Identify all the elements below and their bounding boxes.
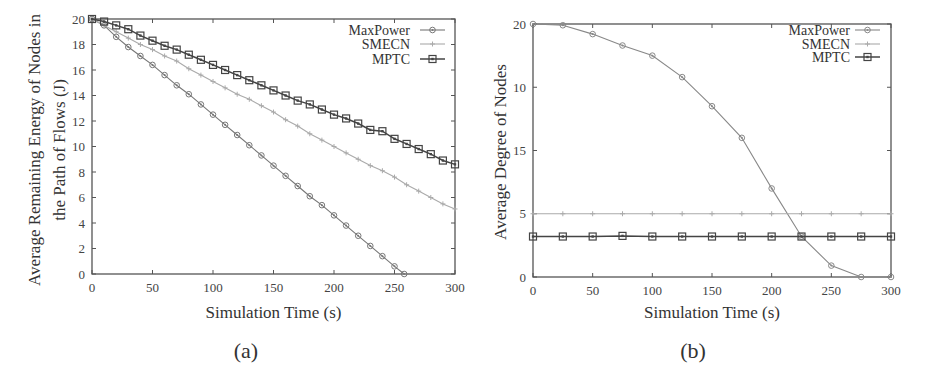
data-point-marker-center [333, 214, 335, 216]
data-point-marker-center [127, 28, 129, 30]
data-point-marker [829, 211, 834, 216]
data-point-marker-center [711, 105, 713, 107]
y-tick-label: 14 [72, 88, 86, 103]
legend-marker [430, 42, 435, 47]
data-point-marker-center [532, 23, 534, 25]
data-point-marker-center [830, 265, 832, 267]
data-point-marker-center [345, 117, 347, 119]
data-point-marker-center [430, 153, 432, 155]
data-point-marker [247, 97, 252, 102]
data-point-marker-center [381, 130, 383, 132]
data-point-marker-center [224, 124, 226, 126]
data-point-marker [404, 182, 409, 187]
data-point-marker-center [139, 34, 141, 36]
data-point-marker-center [321, 204, 323, 206]
legend: MaxPowerSMECNMPTC [349, 23, 445, 67]
data-point-marker-center [532, 235, 534, 237]
legend-marker-center [431, 58, 433, 60]
y-tick-label: 20 [72, 12, 85, 27]
data-point-marker-center [562, 24, 564, 26]
data-point-marker-center [405, 143, 407, 145]
data-point-marker-center [770, 235, 772, 237]
data-point-marker-center [622, 45, 624, 47]
data-point-marker-center [297, 99, 299, 101]
data-point-marker [307, 131, 312, 136]
data-point-marker-center [333, 113, 335, 115]
legend-label: SMECN [362, 37, 410, 52]
y-tick-label: 8 [79, 165, 86, 180]
y-tick-label: 0 [79, 267, 86, 282]
y-tick-label: 15 [513, 143, 526, 158]
data-point-marker-center [139, 55, 141, 57]
data-point-marker [162, 53, 167, 58]
data-point-marker-center [224, 69, 226, 71]
x-tick-label: 250 [822, 283, 842, 298]
y-axis-label: the Path of Flows (J) [50, 79, 69, 221]
data-point-marker-center [890, 235, 892, 237]
data-point-marker-center [890, 276, 892, 278]
data-point-marker-center [200, 103, 202, 105]
y-tick-label: 6 [79, 190, 86, 205]
data-point-marker [453, 206, 458, 211]
figure-caption: (b) [680, 338, 706, 363]
data-point-marker-center [103, 20, 105, 22]
chart-panel-b: 05010015020025030005151020MaxPowerSMECNM… [491, 17, 901, 364]
y-tick-label: 10 [72, 139, 85, 154]
x-tick-label: 300 [881, 283, 901, 298]
data-point-marker [235, 92, 240, 97]
x-tick-label: 200 [324, 280, 344, 295]
figure: 05010015020025030002468101214161820MaxPo… [0, 0, 925, 386]
x-tick-label: 150 [702, 283, 722, 298]
data-point-marker-center [369, 245, 371, 247]
data-point-marker [198, 73, 203, 78]
y-tick-label: 16 [72, 63, 86, 78]
data-point-marker [259, 103, 264, 108]
data-point-marker-center [284, 94, 286, 96]
data-point-marker-center [260, 154, 262, 156]
data-point-marker-center [91, 18, 93, 20]
data-point-marker-center [200, 59, 202, 61]
data-point-marker [356, 157, 361, 162]
x-tick-label: 100 [643, 283, 663, 298]
legend: MaxPowerSMECNMPTC [789, 23, 880, 65]
x-axis-label: Simulation Time (s) [205, 303, 341, 322]
data-point-marker-center [321, 108, 323, 110]
data-point-marker-center [309, 103, 311, 105]
y-axis-label: Average Remaining Energy of Nodes in [25, 14, 44, 286]
data-point-marker [799, 211, 804, 216]
data-point-marker-center [260, 84, 262, 86]
y-tick-label: 4 [79, 216, 86, 231]
series-maxpower [89, 16, 407, 277]
data-point-marker-center [309, 195, 311, 197]
data-point-marker [889, 211, 894, 216]
data-point-marker-center [681, 76, 683, 78]
y-tick-label: 12 [72, 114, 85, 129]
data-point-marker-center [357, 122, 359, 124]
data-point-marker-center [592, 33, 594, 35]
data-point-marker [368, 163, 373, 168]
data-point-marker-center [151, 39, 153, 41]
data-point-marker [590, 211, 595, 216]
data-point-marker-center [442, 159, 444, 161]
data-point-marker-center [771, 187, 773, 189]
data-point-marker [769, 211, 774, 216]
x-tick-label: 200 [762, 283, 782, 298]
data-point-marker [428, 195, 433, 200]
data-point-marker [211, 79, 216, 84]
data-point-marker-center [236, 134, 238, 136]
figure-caption: (a) [234, 338, 258, 363]
legend-label: MaxPower [349, 23, 411, 38]
data-point-marker-center [273, 165, 275, 167]
data-point-marker-center [393, 138, 395, 140]
data-point-marker-center [860, 235, 862, 237]
data-point-marker-center [681, 235, 683, 237]
data-point-marker-center [562, 235, 564, 237]
data-point-marker [150, 47, 155, 52]
x-tick-label: 0 [530, 283, 537, 298]
x-tick-label: 250 [385, 280, 405, 295]
x-tick-label: 50 [586, 283, 599, 298]
data-point-marker [126, 36, 131, 41]
data-point-marker [332, 144, 337, 149]
data-point-marker-center [651, 55, 653, 57]
data-point-marker-center [176, 48, 178, 50]
